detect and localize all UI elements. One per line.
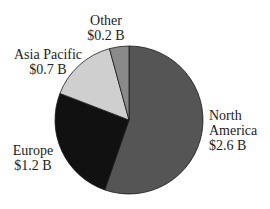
pie-chart	[0, 0, 270, 209]
label-europe: Europe $1.2 B	[10, 143, 56, 173]
label-asia-pacific-name: Asia Pacific	[14, 47, 82, 62]
label-north-america-line2: America	[209, 123, 257, 138]
label-north-america-value: $2.6 B	[209, 138, 257, 153]
label-other-name: Other	[84, 13, 128, 28]
label-other-value: $0.2 B	[84, 28, 128, 43]
label-north-america-line1: North	[209, 108, 257, 123]
label-europe-value: $1.2 B	[10, 158, 56, 173]
label-other: Other $0.2 B	[84, 13, 128, 43]
label-asia-pacific: Asia Pacific $0.7 B	[14, 47, 82, 77]
label-europe-name: Europe	[10, 143, 56, 158]
label-north-america: North America $2.6 B	[209, 108, 257, 153]
label-asia-pacific-value: $0.7 B	[14, 62, 82, 77]
